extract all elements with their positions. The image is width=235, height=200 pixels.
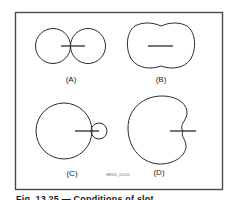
panel-label-b: (B) [156, 75, 167, 84]
figure-diagram: (A) (B) (C) (D) HB905_13-025 [0, 0, 235, 200]
pattern-cardioid [128, 96, 187, 164]
panel-label-d: (D) [153, 168, 164, 177]
panel-a: (A) [36, 29, 106, 85]
panel-c: (C) [36, 103, 107, 178]
panel-label-c: (C) [66, 169, 77, 178]
panel-label-a: (A) [66, 75, 77, 84]
figure-code: HB905_13-025 [106, 173, 130, 177]
panel-d: (D) [128, 96, 196, 177]
figure-frame [16, 13, 223, 190]
panel-b: (B) [127, 23, 194, 84]
figure-caption: Fig. 13.25 — Conditions of slot... [16, 194, 162, 200]
